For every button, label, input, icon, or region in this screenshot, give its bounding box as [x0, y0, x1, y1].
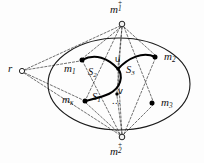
node-label-u: u [115, 54, 120, 64]
node-label-m3-sub: 3 [169, 102, 173, 110]
set-label-S2: S2 [88, 67, 97, 79]
node-label-m1plus-base: m [110, 3, 118, 15]
node-label-r: r [8, 63, 12, 74]
dashed-edge-r-mk [25, 73, 83, 100]
set-label-S2-sub: 2 [93, 71, 96, 78]
node-u-marker[interactable] [116, 67, 119, 70]
node-label-m3: m3 [161, 97, 173, 110]
figure-container: r m+1 m+2 m1 m2 m3 mκ u v S1 S2 S3 ... [0, 0, 204, 163]
set-label-S3: S3 [126, 65, 135, 77]
node-label-m3-base: m [161, 96, 169, 108]
node-label-m2-sub: 2 [172, 56, 176, 64]
node-label-mk: mκ [62, 94, 73, 107]
node-label-m1: m1 [64, 63, 76, 76]
node-m1-marker[interactable] [80, 58, 85, 63]
node-label-m2plus: m+2 [110, 144, 123, 157]
set-label-S1-sub: 1 [97, 96, 100, 103]
ellipsis-label: ... [112, 96, 121, 106]
node-label-m2plus-scripts: +2 [118, 144, 123, 155]
node-m2plus-marker[interactable] [119, 134, 125, 140]
solid-edge-u-m2 [118, 55, 155, 69]
dashed-edge-m1plus-m2 [124, 27, 155, 55]
node-label-mk-sub: κ [70, 99, 73, 107]
node-r-marker[interactable] [19, 68, 24, 73]
set-label-S1: S1 [92, 92, 101, 104]
node-m3-marker[interactable] [150, 101, 155, 106]
node-m2-marker[interactable] [153, 55, 158, 60]
graph-canvas [0, 0, 204, 163]
node-m1plus-marker[interactable] [119, 21, 125, 27]
node-label-m2plus-base: m [110, 145, 118, 157]
node-label-m2: m2 [164, 51, 176, 64]
set-label-S3-sub: 3 [131, 69, 134, 76]
node-mk-marker[interactable] [83, 99, 88, 104]
node-label-m1plus: m+1 [110, 2, 123, 15]
node-label-mk-base: m [62, 93, 70, 105]
node-label-m1plus-scripts: +1 [118, 2, 123, 13]
node-label-m2-base: m [164, 50, 172, 62]
node-label-m1-base: m [64, 62, 72, 74]
node-label-m1-sub: 1 [72, 68, 76, 76]
